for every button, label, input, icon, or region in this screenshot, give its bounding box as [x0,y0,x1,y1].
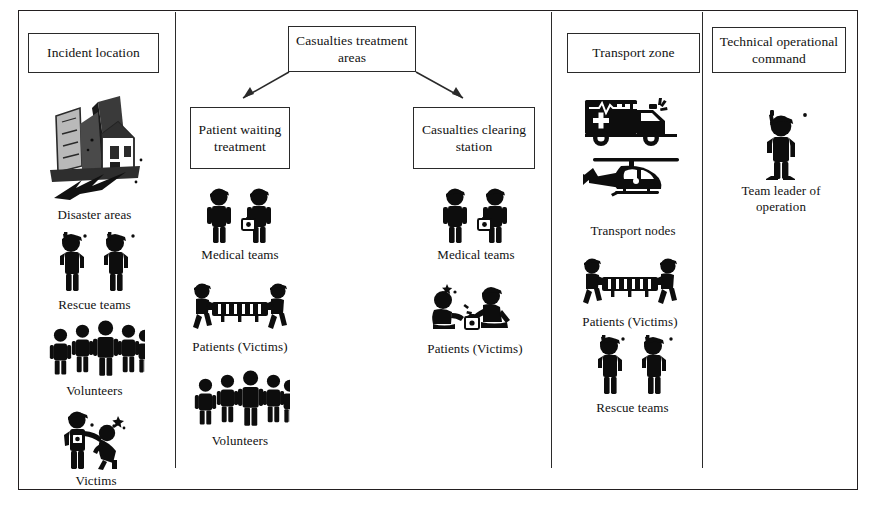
item-team-leader[interactable]: Team leader of operation [735,106,827,216]
column-divider-2 [551,12,552,468]
single-radio-leader-icon [743,106,819,180]
header-transport-zone[interactable]: Transport zone [567,33,700,73]
caption-rescue-teams-transport: Rescue teams [596,400,668,416]
item-disaster-areas[interactable]: Disaster areas [32,94,157,223]
caption-medical-teams-waiting: Medical teams [201,247,278,263]
item-patients-clearing[interactable]: Patients (Victims) [420,280,530,357]
collapsed-buildings-icon [40,94,150,204]
column-divider-3 [702,12,703,468]
item-transport-nodes[interactable]: Transport nodes [577,92,689,239]
diagram-canvas: Incident location [0,0,873,512]
two-radio-responders-icon [583,335,683,397]
caption-volunteers-waiting: Volunteers [212,433,268,449]
item-rescue-teams-transport[interactable]: Rescue teams [580,335,685,416]
caption-team-leader: Team leader of operation [731,183,831,216]
stretcher-carry-icon [578,255,682,311]
caption-volunteers-incident: Volunteers [66,383,122,399]
two-radio-responders-icon [45,232,145,294]
caption-rescue-teams: Rescue teams [58,297,130,313]
caption-patients-waiting: Patients (Victims) [192,339,287,355]
item-medical-teams-waiting[interactable]: Medical teams [192,186,288,263]
item-volunteers-incident[interactable]: Volunteers [42,318,147,399]
item-rescue-teams[interactable]: Rescue teams [42,232,147,313]
header-technical-operational-command[interactable]: Technical operational command [712,27,846,73]
caption-patients-transport: Patients (Victims) [582,314,677,330]
item-volunteers-waiting[interactable]: Volunteers [190,368,290,449]
item-patients-waiting[interactable]: Patients (Victims) [186,280,294,355]
caption-patients-clearing: Patients (Victims) [427,341,522,357]
caption-transport-nodes: Transport nodes [590,223,675,239]
header-patient-waiting-treatment[interactable]: Patient waiting treatment [190,107,290,169]
item-patients-transport[interactable]: Patients (Victims) [573,255,687,330]
item-victims-incident[interactable]: Victims [48,408,144,489]
caption-medical-teams-clearing: Medical teams [437,247,514,263]
crowd-of-five-icon [45,318,145,380]
item-medical-teams-clearing[interactable]: Medical teams [428,186,524,263]
responder-supporting-injured-icon [51,408,141,470]
stretcher-carry-icon [188,280,292,336]
two-medics-with-kit-icon [195,186,285,244]
caption-victims-incident: Victims [75,473,116,489]
caption-disaster-areas: Disaster areas [58,207,132,223]
ambulance-and-helicopter-icon [577,92,689,220]
two-medics-with-kit-icon [431,186,521,244]
header-incident-location[interactable]: Incident location [28,33,159,73]
header-casualties-clearing-station[interactable]: Casualties clearing station [413,107,535,169]
medic-treating-seated-patient-icon [425,280,525,338]
crowd-of-five-icon [190,368,290,430]
